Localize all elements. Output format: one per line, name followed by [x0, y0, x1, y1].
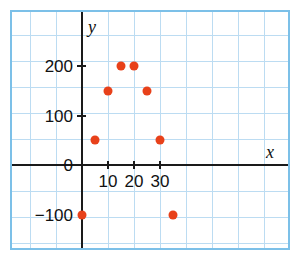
y-tick-label: 200 — [45, 58, 73, 75]
data-point — [117, 62, 126, 71]
x-tick-label: 20 — [125, 173, 144, 190]
grid-line-vertical — [186, 12, 187, 248]
y-axis-tick — [77, 164, 86, 166]
chart-frame: −1000100200102030 x y — [10, 10, 290, 250]
data-point — [169, 210, 178, 219]
data-point — [143, 86, 152, 95]
scatter-chart: −1000100200102030 x y — [0, 0, 299, 269]
grid-line-horizontal — [12, 139, 288, 140]
x-tick-label: 10 — [99, 173, 118, 190]
grid-line-vertical — [212, 12, 213, 248]
x-axis-tick — [107, 161, 109, 169]
data-point — [78, 210, 87, 219]
x-axis — [12, 164, 288, 166]
x-axis-tick — [159, 161, 161, 169]
data-point — [156, 136, 165, 145]
grid-line-horizontal — [12, 191, 288, 192]
data-point — [130, 62, 139, 71]
grid-line-vertical — [108, 12, 109, 248]
x-axis-label: x — [266, 143, 274, 161]
grid-line-vertical — [238, 12, 239, 248]
y-axis-label: y — [88, 18, 96, 36]
y-tick-label: 0 — [64, 157, 73, 174]
data-point — [104, 86, 113, 95]
y-tick-label: 100 — [45, 107, 73, 124]
y-axis-tick — [77, 65, 86, 67]
grid-line-vertical — [30, 12, 31, 248]
grid-line-vertical — [134, 12, 135, 248]
y-axis-tick — [77, 115, 86, 117]
x-tick-label: 30 — [151, 173, 170, 190]
data-point — [91, 136, 100, 145]
grid-line-horizontal — [12, 243, 288, 244]
grid-line-horizontal — [12, 35, 288, 36]
y-tick-label: −100 — [35, 206, 73, 223]
grid-line-vertical — [160, 12, 161, 248]
x-axis-tick — [133, 161, 135, 169]
grid-line-vertical — [264, 12, 265, 248]
